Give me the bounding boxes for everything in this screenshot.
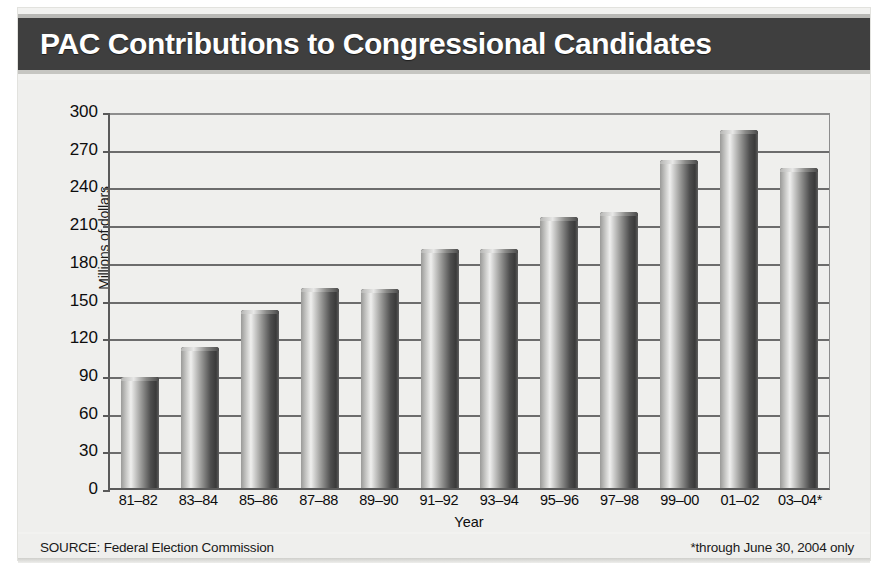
x-axis-tick-label: 95–96 <box>529 492 589 508</box>
x-axis-tick-label: 97–98 <box>589 492 649 508</box>
bar <box>361 289 399 488</box>
y-axis-tick-mark <box>103 264 110 266</box>
bar <box>121 377 159 488</box>
bar <box>720 130 758 488</box>
x-axis-tick-labels: 81–8283–8485–8687–8889–9091–9293–9495–96… <box>108 492 830 508</box>
chart-footer: SOURCE: Federal Election Commission *thr… <box>18 534 870 560</box>
plot-area: 0306090120150180210240270300 <box>108 113 830 490</box>
y-axis-tick-label: 240 <box>12 177 98 197</box>
bar <box>780 168 818 488</box>
x-axis-tick-label: 89–90 <box>349 492 409 508</box>
y-axis-tick-mark <box>103 151 110 153</box>
y-axis-tick-label: 150 <box>12 291 98 311</box>
y-axis-tick-mark <box>103 302 110 304</box>
x-axis-tick-label: 81–82 <box>108 492 168 508</box>
y-axis-tick-label: 180 <box>12 253 98 273</box>
bar <box>181 347 219 488</box>
bar <box>480 249 518 488</box>
page-bottom-edge <box>18 558 870 563</box>
x-axis-tick-label: 01–02 <box>710 492 770 508</box>
bar-slot <box>410 113 470 488</box>
y-axis-tick-label: 0 <box>12 479 98 499</box>
x-axis-tick-label: 99–00 <box>650 492 710 508</box>
bar <box>421 249 459 488</box>
y-axis-tick-label: 90 <box>12 366 98 386</box>
bar-slot <box>649 113 709 488</box>
chart-panel: Millions of dollars 03060901201501802102… <box>18 80 870 532</box>
y-axis-tick-label: 270 <box>12 140 98 160</box>
chart-title-band: PAC Contributions to Congressional Candi… <box>18 14 870 74</box>
bar-slot <box>470 113 530 488</box>
bar-slot <box>350 113 410 488</box>
bar <box>301 288 339 488</box>
x-axis-tick-label: 83–84 <box>168 492 228 508</box>
bar-slot <box>709 113 769 488</box>
chart-page: PAC Contributions to Congressional Candi… <box>0 0 878 573</box>
x-axis-tick-label: 87–88 <box>289 492 349 508</box>
y-axis-tick-label: 60 <box>12 404 98 424</box>
y-axis-tick-mark <box>103 452 110 454</box>
page-title: PAC Contributions to Congressional Candi… <box>40 27 711 61</box>
asterisk-note: *through June 30, 2004 only <box>691 540 854 555</box>
bar <box>540 217 578 488</box>
source-note: SOURCE: Federal Election Commission <box>40 540 274 555</box>
y-axis-tick-mark <box>103 415 110 417</box>
y-axis-tick-mark <box>103 113 110 115</box>
y-axis-tick-label: 120 <box>12 328 98 348</box>
bar-slot <box>230 113 290 488</box>
bar <box>660 160 698 488</box>
y-axis-tick-mark <box>103 188 110 190</box>
bar-slot <box>170 113 230 488</box>
bar-slot <box>290 113 350 488</box>
y-axis-tick-label: 30 <box>12 441 98 461</box>
bar-slot <box>529 113 589 488</box>
x-axis-tick-label: 03–04* <box>770 492 830 508</box>
x-axis-tick-label: 85–86 <box>228 492 288 508</box>
bar <box>600 212 638 488</box>
x-axis-tick-label: 93–94 <box>469 492 529 508</box>
bar-slot <box>589 113 649 488</box>
y-axis-tick-mark <box>103 339 110 341</box>
y-axis-tick-mark <box>103 226 110 228</box>
bar-series <box>110 113 829 488</box>
y-axis-tick-label: 210 <box>12 215 98 235</box>
bar-slot <box>769 113 829 488</box>
bar-slot <box>110 113 170 488</box>
bar <box>241 310 279 488</box>
y-axis-tick-mark <box>103 377 110 379</box>
y-axis-tick-label: 300 <box>12 102 98 122</box>
x-axis-title: Year <box>108 514 830 530</box>
x-axis-tick-label: 91–92 <box>409 492 469 508</box>
